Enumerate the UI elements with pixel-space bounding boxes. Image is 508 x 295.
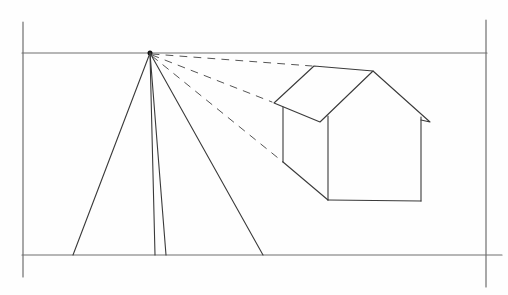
roof-gable — [373, 71, 430, 122]
converging-line-1 — [73, 53, 150, 255]
house — [274, 66, 430, 201]
roof-left-plane — [274, 66, 373, 122]
base-front-edge — [328, 200, 421, 201]
perspective-drawing — [0, 0, 508, 295]
base-side-edge — [283, 162, 328, 200]
construction-line-roof-peak — [152, 54, 312, 66]
converging-line-4 — [150, 53, 263, 255]
sketch-svg — [0, 0, 508, 295]
construction-line-base — [152, 56, 283, 162]
